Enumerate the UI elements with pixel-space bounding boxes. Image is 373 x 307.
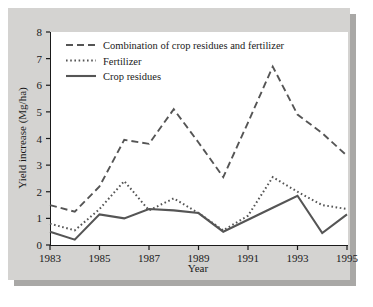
figure-container: 012345678 1983198519871989199119931995 Y…	[0, 0, 373, 307]
series-line	[50, 67, 347, 212]
y-tick-label: 2	[37, 186, 43, 198]
data-series-group	[50, 67, 347, 240]
x-tick-label: 1983	[39, 252, 62, 264]
x-tick-label: 1987	[138, 252, 161, 264]
y-tick-label: 7	[37, 53, 43, 65]
legend-label: Combination of crop residues and fertili…	[103, 40, 285, 51]
x-axis-ticks	[50, 245, 347, 250]
y-tick-label: 4	[37, 133, 43, 145]
x-tick-label: 1985	[89, 252, 112, 264]
series-line	[50, 196, 347, 240]
y-axis-tick-labels: 012345678	[37, 26, 43, 251]
legend-label: Fertilizer	[103, 56, 142, 67]
y-tick-label: 5	[37, 106, 43, 118]
x-tick-label: 1995	[336, 252, 359, 264]
y-tick-label: 3	[37, 159, 43, 171]
y-tick-label: 6	[37, 79, 43, 91]
x-tick-label: 1991	[237, 252, 259, 264]
legend-label: Crop residues	[103, 71, 161, 82]
legend: Combination of crop residues and fertili…	[66, 40, 285, 82]
x-axis-title: Year	[188, 262, 209, 274]
y-tick-label: 8	[37, 26, 43, 38]
chart-svg: 012345678 1983198519871989199119931995 Y…	[0, 0, 373, 307]
y-tick-label: 0	[37, 239, 43, 251]
y-axis-title: Yield increase (Mg/ha)	[16, 87, 29, 189]
y-axis-ticks	[46, 32, 50, 245]
x-tick-label: 1993	[287, 252, 310, 264]
y-tick-label: 1	[37, 212, 43, 224]
